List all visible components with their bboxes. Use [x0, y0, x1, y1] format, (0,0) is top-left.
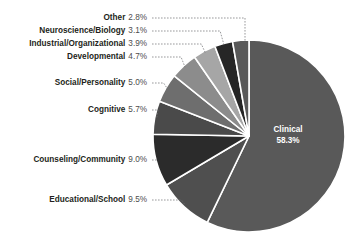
leader-line-developmental	[152, 57, 185, 67]
slice-label-name: Cognitive	[88, 105, 126, 114]
slice-label-percent: 3.9%	[128, 39, 147, 48]
pie-slices-group	[153, 40, 345, 232]
slice-label-educational-school: Educational/School9.5%	[49, 195, 147, 204]
slice-label-percent: 5.7%	[128, 105, 147, 114]
slice-label-social-personality: Social/Personality5.0%	[55, 78, 147, 87]
slice-label-industrial-organizational: Industrial/Organizational3.9%	[29, 39, 147, 48]
slice-label-name: Social/Personality	[55, 78, 126, 87]
slice-label-percent: 5.0%	[128, 78, 147, 87]
inside-slice-percent: 58.3%	[276, 136, 300, 145]
inside-slice-name: Clinical	[273, 125, 302, 134]
slice-label-name: Educational/School	[49, 195, 125, 204]
leader-line-other	[152, 18, 245, 42]
slice-label-name: Counseling/Community	[33, 155, 125, 164]
slice-label-percent: 9.0%	[128, 155, 147, 164]
pie-chart-canvas: Other2.8%Neuroscience/Biology3.1%Industr…	[0, 0, 357, 243]
slice-label-other: Other2.8%	[103, 13, 147, 22]
leader-line-industrial-organizational	[152, 44, 205, 53]
slice-label-neuroscience-biology: Neuroscience/Biology3.1%	[39, 26, 147, 35]
slice-label-percent: 2.8%	[128, 13, 147, 22]
slice-label-percent: 9.5%	[128, 195, 147, 204]
slice-label-percent: 4.7%	[128, 52, 147, 61]
leader-line-neuroscience-biology	[152, 31, 224, 45]
slice-label-counseling-community: Counseling/Community9.0%	[33, 155, 147, 164]
pie-chart-figure: Other2.8%Neuroscience/Biology3.1%Industr…	[0, 0, 357, 243]
slice-label-developmental: Developmental4.7%	[67, 52, 147, 61]
slice-label-percent: 3.1%	[128, 26, 147, 35]
slice-label-cognitive: Cognitive5.7%	[88, 105, 147, 114]
slice-label-name: Neuroscience/Biology	[39, 26, 125, 35]
slice-labels-group: Other2.8%Neuroscience/Biology3.1%Industr…	[29, 13, 147, 204]
slice-label-name: Industrial/Organizational	[29, 39, 125, 48]
slice-label-name: Developmental	[67, 52, 125, 61]
slice-label-name: Other	[103, 13, 126, 22]
